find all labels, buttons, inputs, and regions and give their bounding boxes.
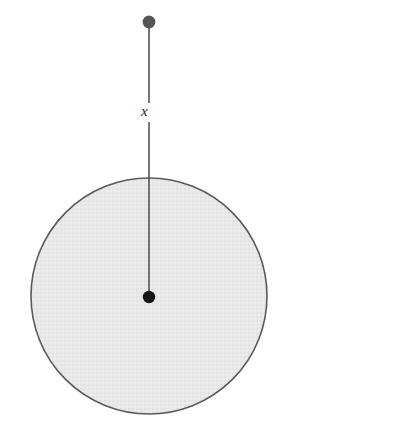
- distance-label-x: x: [141, 104, 148, 119]
- disc-centre-dot: [143, 291, 155, 303]
- diagram-svg: [0, 0, 398, 443]
- top-point-mass-dot: [143, 16, 156, 29]
- figure-canvas: x: [0, 0, 398, 443]
